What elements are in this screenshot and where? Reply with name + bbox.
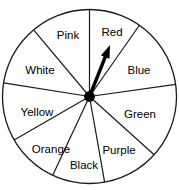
spinner-center-hub[interactable]	[84, 91, 95, 102]
sector-label-green: Green	[124, 108, 156, 120]
sector-label-purple: Purple	[102, 144, 135, 156]
sector-label-red: Red	[101, 26, 122, 38]
sector-label-blue: Blue	[127, 64, 150, 76]
sector-label-orange: Orange	[32, 143, 70, 155]
sector-label-yellow: Yellow	[21, 106, 55, 118]
spinner-wheel-svg: RedBlueGreenPurpleBlackOrangeYellowWhite…	[0, 0, 179, 190]
sector-label-white: White	[25, 64, 54, 76]
sector-label-pink: Pink	[57, 29, 80, 41]
spinner-wheel-figure: RedBlueGreenPurpleBlackOrangeYellowWhite…	[0, 0, 179, 190]
sector-label-black: Black	[70, 159, 98, 171]
